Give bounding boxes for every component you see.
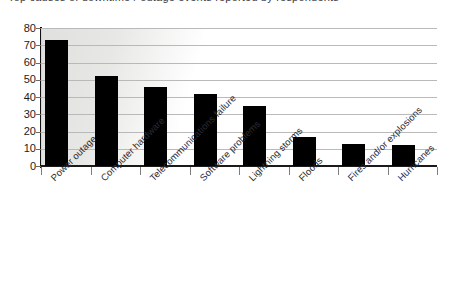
gridline-70 [41,45,437,46]
y-tick-label-30: 30 [4,109,36,120]
y-tick-mark-20 [36,132,41,133]
y-tick-label-20: 20 [4,126,36,137]
y-tick-mark-70 [36,45,41,46]
y-tick-label-60: 60 [4,57,36,68]
gridline-60 [41,63,437,64]
y-tick-mark-40 [36,97,41,98]
y-tick-mark-30 [36,114,41,115]
y-tick-mark-10 [36,149,41,150]
y-tick-label-50: 50 [4,74,36,85]
gridline-80 [41,28,437,29]
bar-chart-figure: 80706050403020100 Power outageComputer h… [0,0,453,287]
y-tick-label-70: 70 [4,40,36,51]
x-axis-category-labels: Power outageComputer hardwareTelecommuni… [0,166,453,287]
bar [95,76,118,166]
y-tick-label-40: 40 [4,92,36,103]
y-tick-label-10: 10 [4,143,36,154]
bar [45,40,68,166]
chart-screenshot: Top causes of downtime / outage events r… [0,0,453,287]
y-tick-mark-50 [36,80,41,81]
y-tick-mark-60 [36,63,41,64]
y-tick-mark-80 [36,28,41,29]
y-tick-label-80: 80 [4,23,36,34]
y-tick-mark-0 [36,166,41,167]
